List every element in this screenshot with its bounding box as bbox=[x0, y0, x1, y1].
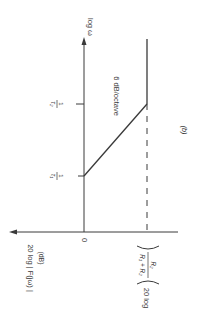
svg-text:R₁ + R₂: R₁ + R₂ bbox=[139, 254, 146, 276]
svg-text:20 log | F(jω) |: 20 log | F(jω) | bbox=[26, 244, 35, 292]
y-axis-label: 20 log | F(jω) | (dB) bbox=[26, 244, 45, 292]
svg-text:1: 1 bbox=[58, 102, 64, 106]
bode-magnitude-figure: log ω 1 τ₂ 1 τ₁ 6 dB/octave (b) 0 20 log… bbox=[0, 0, 197, 331]
panel-label: (b) bbox=[180, 126, 188, 135]
tick-label-tau2: 1 τ₂ bbox=[50, 100, 64, 108]
tick-label-tau1: 1 τ₁ bbox=[50, 172, 64, 180]
bode-plot-svg: log ω 1 τ₂ 1 τ₁ 6 dB/octave (b) 0 20 log… bbox=[0, 0, 197, 331]
frequency-axis-arrow-icon bbox=[82, 37, 87, 45]
y-tick-low-label: 20 log R₂ R₁ + R₂ bbox=[137, 246, 159, 308]
svg-text:(dB): (dB) bbox=[37, 251, 45, 264]
svg-text:20 log: 20 log bbox=[142, 288, 151, 308]
svg-text:R₂: R₂ bbox=[150, 261, 157, 269]
svg-text:1: 1 bbox=[58, 174, 64, 178]
y-tick-zero: 0 bbox=[80, 238, 89, 242]
magnitude-axis-arrow-icon bbox=[9, 230, 17, 235]
svg-text:τ₂: τ₂ bbox=[50, 102, 57, 107]
slope-label: 6 dB/octave bbox=[112, 76, 121, 116]
x-axis-label: log ω bbox=[86, 18, 95, 36]
svg-text:τ₁: τ₁ bbox=[50, 174, 57, 178]
